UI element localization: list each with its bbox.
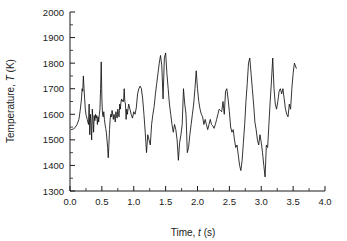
temperature-time-series-figure: 0.00.51.01.52.02.53.03.54.0 130014001500…: [0, 0, 347, 241]
y-tick-label: 1900: [43, 32, 64, 43]
x-axis-title: Time, t (s): [171, 227, 216, 238]
y-tick-label: 1300: [43, 186, 64, 197]
svg-text:Temperature, T (K): Temperature, T (K): [5, 59, 16, 143]
y-tick-label: 2000: [43, 7, 64, 18]
x-tick-label: 1.5: [159, 196, 172, 207]
x-tick-label: 0.0: [63, 196, 76, 207]
x-tick-label: 2.0: [191, 196, 204, 207]
y-tick-label: 1500: [43, 134, 64, 145]
y-tick-label: 1400: [43, 160, 64, 171]
x-tick-label: 4.0: [318, 196, 331, 207]
x-tick-label: 1.0: [127, 196, 140, 207]
x-tick-label: 0.5: [95, 196, 108, 207]
x-tick-label: 2.5: [223, 196, 236, 207]
y-tick-label: 1600: [43, 109, 64, 120]
svg-text:Time, t (s): Time, t (s): [171, 227, 216, 238]
chart-canvas: 0.00.51.01.52.02.53.03.54.0 130014001500…: [0, 0, 347, 241]
y-tick-label: 1700: [43, 83, 64, 94]
x-tick-label: 3.0: [255, 196, 268, 207]
y-tick-label: 1800: [43, 58, 64, 69]
x-axis-tick-labels: 0.00.51.01.52.02.53.03.54.0: [63, 196, 331, 207]
y-axis-title: Temperature, T (K): [5, 59, 16, 143]
x-tick-label: 3.5: [287, 196, 300, 207]
